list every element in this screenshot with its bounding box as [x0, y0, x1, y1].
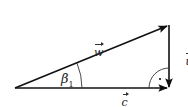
- label-angle-beta1: β1: [61, 72, 74, 89]
- angle-symbol: β: [61, 71, 69, 86]
- right-angle-marker: [149, 68, 169, 88]
- right-angle-dot: [159, 78, 161, 80]
- angle-arc-beta1: [77, 63, 82, 88]
- label-vector-u: u: [185, 56, 188, 67]
- vector-w-arrow: [15, 26, 167, 88]
- angle-subscript: 1: [69, 80, 74, 89]
- label-vector-w: w: [94, 47, 103, 58]
- label-vector-c: c: [122, 97, 128, 107]
